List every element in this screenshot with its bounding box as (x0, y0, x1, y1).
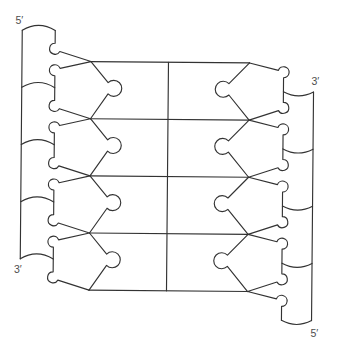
right-strand-top-end-label: 3′ (312, 75, 320, 87)
right-phosphate-arc (283, 92, 313, 96)
left-sugar-ring (90, 119, 121, 176)
right-phosphate-arc (282, 263, 312, 267)
base-pair-rung (91, 62, 250, 63)
left-sugar-ring (89, 233, 120, 290)
base-pair-rung (89, 290, 248, 291)
left-strand-top-end-label: 5′ (16, 14, 24, 26)
right-backbone-sugar-contour (247, 63, 289, 320)
left-sugar-ring (89, 176, 120, 233)
right-sugar-ring (214, 120, 249, 177)
right-strand-bottom-end-label: 5′ (311, 327, 319, 339)
left-phosphate-arc (21, 197, 54, 202)
left-phosphate-arc (21, 140, 54, 145)
right-phosphate-arc (282, 206, 312, 210)
base-pair-rung (89, 233, 248, 234)
left-phosphate-arc (22, 25, 55, 30)
left-strand-bottom-end-label: 3′ (14, 263, 22, 275)
left-backbone-sugar-contour (47, 30, 91, 290)
dna-diagram-canvas: 5′ 3′ 3′ 5′ (0, 0, 339, 348)
dna-structure-lines (20, 25, 314, 324)
right-phosphate-arc (281, 320, 311, 324)
left-sugar-ring (90, 62, 121, 119)
right-phosphate-arc (283, 149, 313, 153)
base-pair-rung (90, 119, 249, 120)
right-sugar-ring (215, 63, 250, 120)
base-pair-rung (90, 176, 249, 177)
right-sugar-ring (214, 177, 249, 234)
left-phosphate-arc (22, 82, 55, 87)
dna-double-strand-diagram: 5′ 3′ 3′ 5′ (0, 0, 339, 348)
left-phosphate-arc (20, 254, 53, 259)
right-sugar-ring (213, 234, 248, 291)
